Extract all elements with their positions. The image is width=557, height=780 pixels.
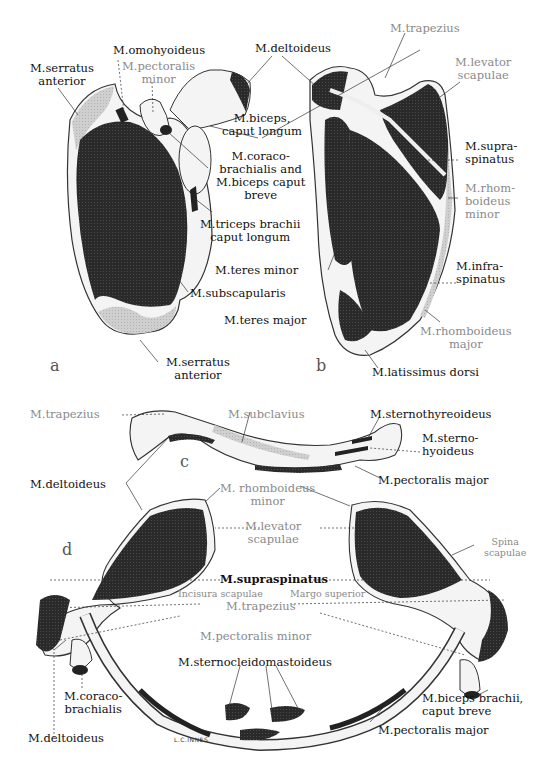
- coracobrachialis-d-mark: [72, 665, 88, 675]
- label-a-serratus-anterior-bottom: M.serratus anterior: [166, 356, 230, 382]
- label-b-supraspinatus: M.supra- spinatus: [465, 140, 517, 166]
- label-a-subscapularis: M.subscapularis: [190, 287, 286, 300]
- label-b-teres-major: M.teres major: [224, 314, 306, 327]
- sternum-mid: [270, 706, 305, 722]
- label-b-levator-scapulae: M.levator scapulae: [455, 56, 511, 82]
- label-d-spina-scapulae: Spina scapulae: [484, 536, 526, 558]
- label-d-biceps-caput-breve: M.biceps brachii, caput breve: [422, 692, 523, 718]
- label-d-coracobrachialis: M.coraco- brachialis: [64, 690, 122, 716]
- glenoid-a: [179, 126, 211, 194]
- label-a-pectoralis-minor: M.pectoralis minor: [122, 60, 195, 86]
- label-d-incisura-scapulae: Incisura scapulae: [178, 588, 263, 599]
- panel-letter-c: c: [180, 452, 189, 471]
- panel-b-scapula-posterior: [310, 67, 455, 356]
- panel-letter-d: d: [62, 540, 72, 559]
- label-b-rhomboideus-minor: M.rhom- boideus minor: [465, 182, 515, 221]
- label-b-rhomboideus-major: M.rhomboideus major: [420, 325, 512, 351]
- label-b-latissimus-dorsi: M.latissimus dorsi: [372, 366, 479, 379]
- label-b-trapezius: M.trapezius: [390, 22, 460, 35]
- artist-signature: L.C.INNES: [174, 736, 208, 743]
- label-a-triceps-caput-longum: M.triceps brachii caput longum: [200, 218, 300, 244]
- label-c-subclavius: M.subclavius: [228, 408, 305, 421]
- label-d-rhomboideus-minor: M. rhomboideus minor: [220, 482, 315, 508]
- panel-letter-b: b: [316, 356, 326, 375]
- label-c-sternothyreoideus: M.sternothyreoideus: [370, 408, 492, 421]
- label-c-trapezius: M.trapezius: [30, 408, 100, 421]
- label-a-biceps-caput-longum: M.biceps, caput longum: [222, 112, 302, 138]
- label-a-serratus-anterior-top: M.serratus anterior: [30, 62, 94, 88]
- label-d-pectoralis-minor: M.pectoralis minor: [200, 630, 311, 643]
- label-d-supraspinatus: M.supraspinatus: [220, 573, 328, 586]
- label-d-levator-scapulae: M.levator scapulae: [245, 520, 301, 546]
- sternum-left: [225, 703, 250, 720]
- label-b-infraspinatus: M.infra- spinatus: [456, 260, 505, 286]
- coracoid-d-right: [460, 660, 480, 695]
- label-a-deltoideus: M.deltoideus: [255, 42, 331, 55]
- coracobrachialis-mark: [160, 125, 172, 135]
- label-d-margo-superior: Margo superior: [290, 588, 365, 599]
- label-d-trapezius: M.trapezius: [226, 600, 296, 613]
- label-d-pectoralis-major: M.pectoralis major: [378, 724, 489, 737]
- label-d-sternocleidomastoideus: M.sternocleidomastoideus: [178, 656, 332, 669]
- sternum-lower: [240, 728, 280, 740]
- label-b-teres-minor: M.teres minor: [215, 264, 298, 277]
- label-d-deltoideus: M.deltoideus: [28, 732, 104, 745]
- panel-letter-a: a: [50, 356, 60, 375]
- label-c-pectoralis-major: M.pectoralis major: [378, 474, 489, 487]
- label-a-coracobrachialis-biceps-breve: M.coraco- brachialis and M.biceps caput …: [216, 150, 305, 202]
- coracoid-d-left: [70, 639, 92, 669]
- label-c-sternohyoideus: M.sterno- hyoideus: [422, 432, 478, 458]
- supraspinatus-d-left: [92, 508, 207, 600]
- label-c-deltoideus: M.deltoideus: [30, 478, 106, 491]
- label-a-omohyoideus: M.omohyoideus: [113, 44, 205, 57]
